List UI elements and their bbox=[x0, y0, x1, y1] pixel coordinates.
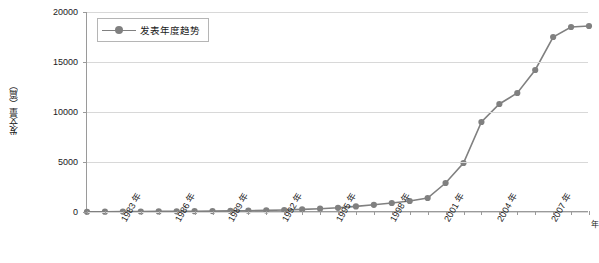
data-point bbox=[496, 101, 502, 107]
y-axis-tick-label: 5000 bbox=[58, 157, 82, 167]
x-axis-tick-mark bbox=[320, 211, 321, 215]
x-axis-tick-mark bbox=[195, 211, 196, 215]
chart-container: 发文量（篇） 05000100001500020000 1983 年1986 年… bbox=[0, 0, 599, 263]
y-axis-tick-label: 10000 bbox=[53, 107, 82, 117]
x-axis-tick-mark bbox=[87, 211, 88, 215]
data-point bbox=[550, 34, 556, 40]
x-axis-label: 年 bbox=[591, 218, 599, 229]
y-axis-tick-mark bbox=[83, 112, 87, 113]
data-point bbox=[389, 200, 395, 206]
x-axis-tick-mark bbox=[159, 211, 160, 215]
x-axis-tick-mark bbox=[356, 211, 357, 215]
x-axis-tick-mark bbox=[535, 211, 536, 215]
y-axis-tick-label: 15000 bbox=[53, 57, 82, 67]
x-axis-tick-mark bbox=[410, 211, 411, 215]
data-point bbox=[514, 90, 520, 96]
data-point bbox=[371, 202, 377, 208]
y-axis-tick-labels: 05000100001500020000 bbox=[24, 0, 82, 215]
y-axis-tick-label: 20000 bbox=[53, 7, 82, 17]
legend-label: 发表年度趋势 bbox=[140, 23, 200, 37]
legend: 发表年度趋势 bbox=[97, 18, 209, 42]
y-axis-tick-mark bbox=[83, 12, 87, 13]
data-point bbox=[532, 67, 538, 73]
x-axis-tick-mark bbox=[105, 211, 106, 215]
data-point bbox=[442, 180, 448, 186]
x-axis-tick-mark bbox=[571, 211, 572, 215]
gridline bbox=[87, 12, 588, 13]
plot-area bbox=[86, 12, 588, 212]
data-point bbox=[586, 23, 592, 29]
y-axis-tick-label: 0 bbox=[73, 207, 82, 217]
data-point bbox=[425, 195, 431, 201]
data-point bbox=[568, 24, 574, 30]
legend-marker-icon bbox=[102, 25, 136, 36]
x-axis-tick-mark bbox=[428, 211, 429, 215]
gridline bbox=[87, 162, 588, 163]
x-axis-tick-mark bbox=[302, 211, 303, 215]
x-axis-tick-mark bbox=[481, 211, 482, 215]
data-point bbox=[478, 119, 484, 125]
x-axis-tick-mark bbox=[464, 211, 465, 215]
y-axis-tick-mark bbox=[83, 62, 87, 63]
series-path bbox=[87, 26, 589, 212]
gridline bbox=[87, 112, 588, 113]
y-axis-tick-mark bbox=[83, 162, 87, 163]
y-axis-title-text: 发文量（篇） bbox=[9, 81, 18, 135]
x-axis-tick-mark bbox=[374, 211, 375, 215]
x-axis-tick-mark bbox=[213, 211, 214, 215]
x-axis-tick-mark bbox=[517, 211, 518, 215]
x-axis-tick-mark bbox=[266, 211, 267, 215]
data-point bbox=[460, 160, 466, 166]
x-axis-tick-mark bbox=[141, 211, 142, 215]
y-axis-title: 发文量（篇） bbox=[2, 0, 24, 215]
x-axis-tick-mark bbox=[589, 211, 590, 215]
gridline bbox=[87, 62, 588, 63]
x-axis-tick-mark bbox=[248, 211, 249, 215]
